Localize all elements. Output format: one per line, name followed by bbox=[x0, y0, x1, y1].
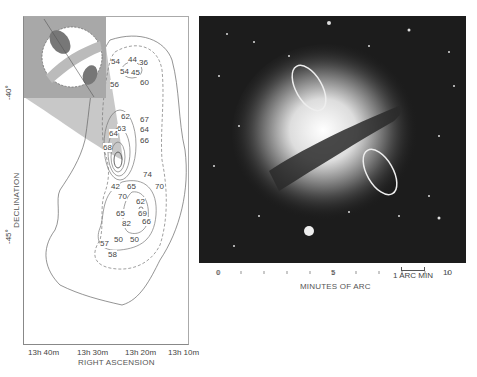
contour-label: 66 bbox=[140, 136, 149, 145]
contour-map bbox=[23, 16, 189, 345]
contour-label: 36 bbox=[139, 58, 148, 67]
contour-label: 42 bbox=[111, 182, 120, 191]
scale-bar-label: 1 ARC MIN bbox=[393, 271, 433, 280]
contour-label: 66 bbox=[142, 217, 151, 226]
contour-label: 70 bbox=[155, 182, 164, 191]
contour-label: 45 bbox=[131, 68, 140, 77]
x-tick-13h10m: 13h 10m bbox=[168, 348, 199, 357]
x-tick-13h40m: 13h 40m bbox=[28, 348, 59, 357]
contour-label: 44 bbox=[128, 55, 137, 64]
contour-label: 65 bbox=[127, 182, 136, 191]
contour-label: 68 bbox=[103, 143, 112, 152]
galaxy-photo bbox=[199, 16, 466, 263]
photo-tick-10: 10 bbox=[443, 268, 452, 277]
contour-label: 62 bbox=[121, 112, 130, 121]
contour-label: 50 bbox=[114, 235, 123, 244]
y-tick-minus45: -45° bbox=[4, 229, 13, 244]
inset-diagram bbox=[24, 17, 106, 98]
x-tick-13h20m: 13h 20m bbox=[125, 348, 156, 357]
contour-label: 63 bbox=[117, 124, 126, 133]
contour-label: 82 bbox=[122, 219, 131, 228]
x-axis-label-ra: RIGHT ASCENSION bbox=[78, 358, 155, 367]
contour-label: 62 bbox=[136, 197, 145, 206]
contour-label: 70 bbox=[118, 192, 127, 201]
contour-label: 56 bbox=[110, 80, 119, 89]
contour-label: 74 bbox=[143, 170, 152, 179]
contour-label: 60 bbox=[140, 78, 149, 87]
contour-label: 67 bbox=[140, 115, 149, 124]
contour-label: 57 bbox=[100, 239, 109, 248]
y-axis-label: DECLINATION bbox=[12, 173, 21, 228]
contour-label: 65 bbox=[116, 209, 125, 218]
contour-label: 58 bbox=[108, 250, 117, 259]
photo-tick-5: 5 bbox=[331, 268, 335, 277]
contour-label: 50 bbox=[130, 235, 139, 244]
y-tick-minus40: -40° bbox=[4, 85, 13, 100]
contour-label: 64 bbox=[140, 125, 149, 134]
contour-label: 64 bbox=[109, 129, 118, 138]
photo-tick-0: 0 bbox=[216, 268, 220, 277]
x-axis-label-minutes: MINUTES OF ARC bbox=[300, 282, 371, 291]
x-tick-13h30m: 13h 30m bbox=[77, 348, 108, 357]
contour-label: 54 bbox=[120, 67, 129, 76]
contour-label: 54 bbox=[111, 57, 120, 66]
